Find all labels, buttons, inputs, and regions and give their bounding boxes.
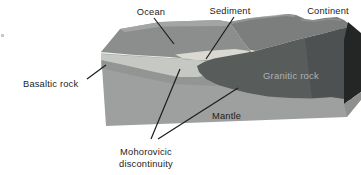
mantle-label: Mantle: [212, 111, 241, 121]
continent-label: Continent: [307, 6, 349, 16]
side-face-dark: [344, 22, 361, 104]
moho-label-line2: discontinuity: [119, 159, 173, 169]
ocean-label: Ocean: [137, 7, 165, 17]
basaltic-rock-label: Basaltic rock: [23, 79, 78, 89]
diagram-canvas: Ocean Sediment Continent Basaltic rock G…: [0, 0, 361, 175]
granitic-rock-label: Granitic rock: [263, 70, 319, 81]
crust-block-diagram: Ocean Sediment Continent Basaltic rock G…: [0, 0, 361, 175]
stray-mark: [1, 34, 4, 37]
sediment-label: Sediment: [210, 6, 251, 16]
moho-label-line1: Mohorovicic: [120, 147, 172, 157]
